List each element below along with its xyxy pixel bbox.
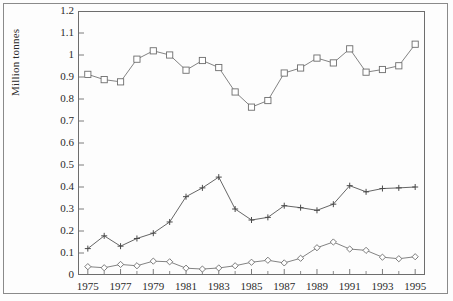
data-point-marker <box>150 230 156 236</box>
x-axis-tick-label: 1979 <box>142 280 164 292</box>
square-marker <box>330 60 336 66</box>
square-marker <box>232 89 238 95</box>
data-point-marker <box>330 60 336 66</box>
y-axis-tick-label: 0.8 <box>38 93 74 104</box>
data-point-marker <box>298 205 304 211</box>
data-point-marker <box>117 79 123 85</box>
diamond-marker <box>298 255 304 261</box>
data-point-marker <box>265 214 271 220</box>
data-point-marker <box>216 265 222 271</box>
data-point-marker <box>248 259 254 265</box>
square-marker <box>265 97 271 103</box>
y-axis-tick-label: 0.9 <box>38 71 74 82</box>
data-point-marker <box>298 255 304 261</box>
x-axis-tick-label: 1995 <box>404 280 426 292</box>
data-point-marker <box>363 189 369 195</box>
data-point-marker <box>379 66 385 72</box>
data-point-marker <box>396 63 402 69</box>
data-point-marker <box>167 219 173 225</box>
y-axis-tick-label: 0.1 <box>38 247 74 258</box>
data-point-marker <box>396 185 402 191</box>
data-point-marker <box>281 70 287 76</box>
diamond-marker <box>167 259 173 265</box>
square-marker <box>363 69 369 75</box>
data-point-marker <box>216 64 222 70</box>
square-marker <box>396 63 402 69</box>
data-point-marker <box>134 263 140 269</box>
data-point-marker <box>412 254 418 260</box>
square-marker <box>199 57 205 63</box>
data-point-marker <box>101 265 107 271</box>
y-axis-tick-label: 0.2 <box>38 225 74 236</box>
y-axis-tick-label: 1.2 <box>38 5 74 16</box>
data-point-marker <box>183 194 189 200</box>
square-marker <box>314 55 320 61</box>
diamond-marker <box>248 259 254 265</box>
square-marker <box>150 48 156 54</box>
plot-area <box>78 11 425 275</box>
y-axis-tick-label: 0.5 <box>38 159 74 170</box>
data-point-marker <box>330 239 336 245</box>
square-marker <box>134 56 140 62</box>
data-point-marker <box>412 41 418 47</box>
y-axis-tick-label: 0.4 <box>38 181 74 192</box>
data-point-marker <box>134 56 140 62</box>
chart-series-series-diamonds <box>85 239 419 272</box>
x-axis-tick-label: 1991 <box>339 280 361 292</box>
data-point-marker <box>249 217 255 223</box>
square-marker <box>347 46 353 52</box>
y-axis-title: Million tonnes <box>9 29 21 96</box>
diamond-marker <box>85 264 91 270</box>
data-point-marker <box>281 203 287 209</box>
square-marker <box>85 71 91 77</box>
square-marker <box>183 67 189 73</box>
y-axis-tick-label: 1.1 <box>38 27 74 38</box>
diamond-marker <box>101 265 107 271</box>
data-point-marker <box>396 256 402 262</box>
data-point-marker <box>232 263 238 269</box>
diamond-marker <box>347 246 353 252</box>
diamond-marker <box>412 254 418 260</box>
y-axis-tick-label: 1 <box>38 49 74 60</box>
data-point-marker <box>183 265 189 271</box>
square-marker <box>101 77 107 83</box>
data-point-marker <box>265 97 271 103</box>
diamond-marker <box>396 256 402 262</box>
x-axis-tick-label: 1989 <box>306 280 328 292</box>
data-point-marker <box>281 260 287 266</box>
diamond-marker <box>199 266 205 272</box>
square-marker <box>167 52 173 58</box>
chart-canvas <box>78 11 425 275</box>
x-axis-tick-label: 1981 <box>175 280 197 292</box>
diamond-marker <box>379 254 385 260</box>
diamond-marker <box>134 263 140 269</box>
data-point-marker <box>265 257 271 263</box>
square-marker <box>248 104 254 110</box>
data-point-marker <box>347 46 353 52</box>
data-point-marker <box>167 52 173 58</box>
diamond-marker <box>363 247 369 253</box>
diamond-marker <box>330 239 336 245</box>
data-point-marker <box>314 207 320 213</box>
data-point-marker <box>248 104 254 110</box>
square-marker <box>281 70 287 76</box>
data-point-marker <box>199 57 205 63</box>
data-point-marker <box>167 259 173 265</box>
data-point-marker <box>150 258 156 264</box>
x-axis-tick-label: 1993 <box>371 280 393 292</box>
data-point-marker <box>314 55 320 61</box>
square-marker <box>216 64 222 70</box>
diamond-marker <box>265 257 271 263</box>
diamond-marker <box>314 245 320 251</box>
data-point-marker <box>347 246 353 252</box>
data-point-marker <box>183 67 189 73</box>
axis-ticks <box>78 11 415 275</box>
diamond-marker <box>232 263 238 269</box>
chart-figure: Million tonnes 00.10.20.30.40.50.60.70.8… <box>0 0 453 301</box>
data-point-marker <box>379 254 385 260</box>
data-point-marker <box>134 235 140 241</box>
data-point-marker <box>232 89 238 95</box>
x-axis-tick-label: 1987 <box>273 280 295 292</box>
data-point-marker <box>412 184 418 190</box>
data-point-marker <box>85 71 91 77</box>
